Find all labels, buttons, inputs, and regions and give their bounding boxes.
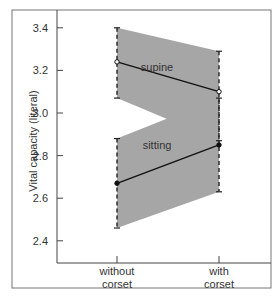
data-point-sitting	[217, 143, 221, 147]
y-tick-label: 2.4	[33, 235, 48, 247]
x-tick-label: corset	[204, 278, 234, 290]
y-axis-label: Vital capacity (literal)	[27, 90, 39, 191]
data-point-supine	[217, 90, 221, 94]
series-label-supine: supine	[141, 61, 173, 73]
y-tick-label: 2.6	[33, 192, 48, 204]
y-tick-label: 3.2	[33, 64, 48, 76]
x-tick-label: corset	[102, 278, 132, 290]
y-tick-label: 3.4	[33, 22, 48, 34]
data-point-sitting	[115, 181, 119, 185]
x-tick-label: without	[99, 265, 135, 277]
x-tick-label: with	[208, 265, 229, 277]
series-label-sitting: sitting	[143, 139, 172, 151]
data-point-supine	[115, 60, 119, 64]
vital-capacity-chart: 2.42.62.83.03.23.4 withoutcorsetwithcors…	[0, 0, 279, 303]
